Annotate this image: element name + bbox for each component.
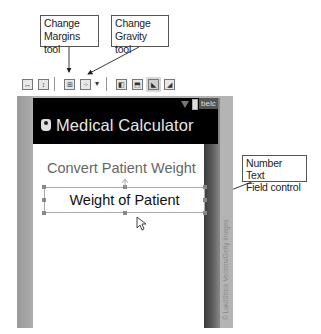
change-margins-glyph: ⊞ [67,81,73,88]
status-text: belc [199,98,218,109]
app-title: Medical Calculator [56,116,194,135]
action-bar: belc Medical Calculator [33,98,218,144]
signal-icon [181,101,189,108]
align-top-glyph: ⬒ [134,81,141,88]
align-bottom-left-glyph: ◣ [151,81,156,88]
fill-width-icon[interactable]: ↔ [22,79,33,90]
callout-line: Field control [246,181,303,193]
app-icon [41,119,51,131]
image-credit: © Luk/iStock Vectors/Getty Images [222,219,229,320]
resize-handle-right[interactable] [203,198,207,202]
toolbar-separator [106,77,107,91]
toolbar-separator [54,77,55,91]
heading-text: Convert Patient Weight [47,160,196,176]
resize-handle-bottom-left[interactable] [42,211,46,215]
resize-handle-bottom[interactable] [123,211,127,215]
change-gravity-glyph: ⁘ [83,81,89,88]
dropdown-glyph: ▾ [95,79,99,88]
gravity-dropdown-arrow-icon[interactable]: ▾ [95,79,99,88]
anchor-up-icon [120,178,130,187]
align-bottom-right-glyph: ◢ [167,81,172,88]
resize-handle-top-right[interactable] [203,185,207,189]
change-gravity-icon[interactable]: ⁘ [80,79,91,90]
app-icon-detail [44,121,48,125]
resize-handle-bottom-right[interactable] [203,211,207,215]
resize-handle-left[interactable] [42,198,46,202]
align-left-icon[interactable]: ◧ [116,79,127,90]
align-left-glyph: ◧ [118,81,125,88]
callout-line: Number Text [246,157,303,181]
mouse-cursor-icon [136,216,147,231]
fill-width-glyph: ↔ [24,81,31,88]
fill-height-glyph: ↕ [42,81,46,88]
fill-height-icon[interactable]: ↕ [38,79,49,90]
battery-icon [192,99,198,110]
resize-handle-top-left[interactable] [42,185,46,189]
change-margins-icon[interactable]: ⊞ [64,79,75,90]
align-top-icon[interactable]: ⬒ [132,79,143,90]
align-bottom-right-icon[interactable]: ◢ [164,79,175,90]
number-field-callout: Number Text Field control [242,155,307,182]
align-bottom-left-icon[interactable]: ◣ [148,79,159,90]
number-field-text: Weight of Patient [45,188,204,212]
number-text-field[interactable]: Weight of Patient [44,187,205,213]
